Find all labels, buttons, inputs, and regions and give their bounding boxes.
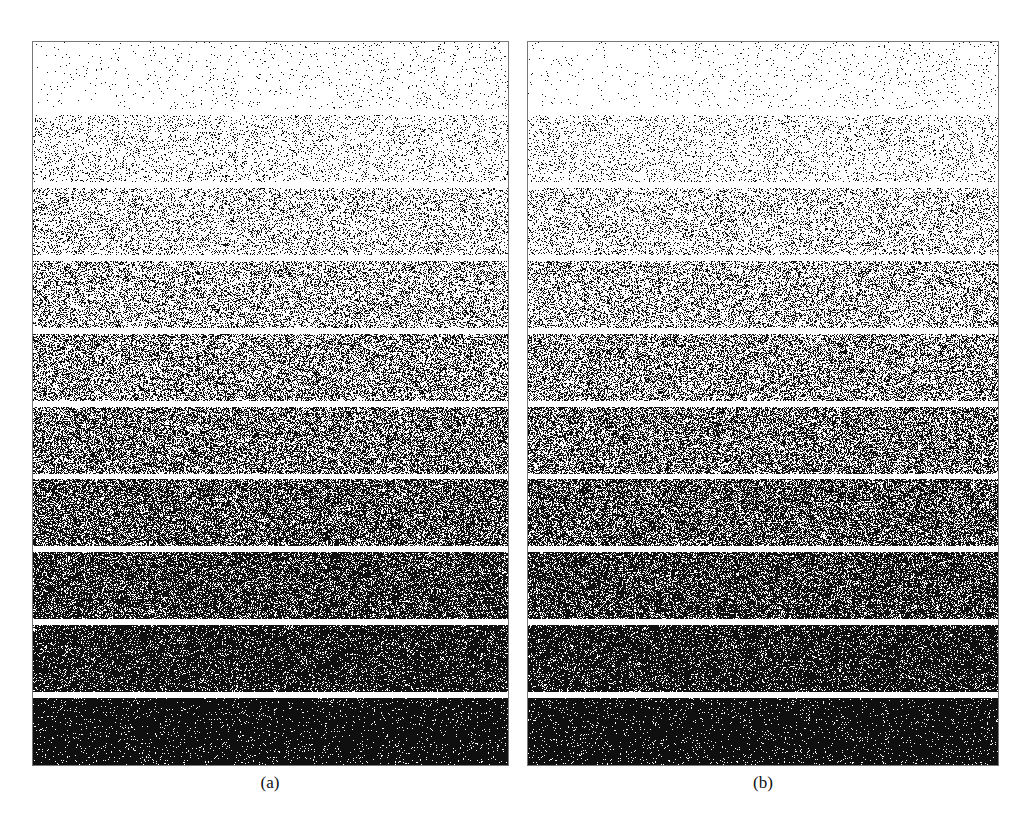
gray-band-4 [33,261,508,328]
gray-band-1 [528,42,998,109]
gray-band-4 [528,261,998,328]
gray-band-3 [33,188,508,255]
gray-band-1 [33,42,508,109]
gray-band-10 [33,698,508,765]
gray-band-5 [33,334,508,401]
gray-band-6 [33,407,508,474]
gray-band-7 [33,479,508,546]
gray-band-5 [528,334,998,401]
gray-band-7 [528,479,998,546]
gray-band-2 [528,115,998,182]
caption-b: (b) [733,773,793,793]
gray-band-9 [528,625,998,692]
gray-band-8 [33,552,508,619]
caption-a: (a) [240,773,300,793]
gray-band-2 [33,115,508,182]
gray-band-9 [33,625,508,692]
gray-band-8 [528,552,998,619]
gray-band-6 [528,407,998,474]
halftone-panel-a [32,41,509,766]
gray-band-10 [528,698,998,765]
gray-band-3 [528,188,998,255]
halftone-panel-b [527,41,999,766]
